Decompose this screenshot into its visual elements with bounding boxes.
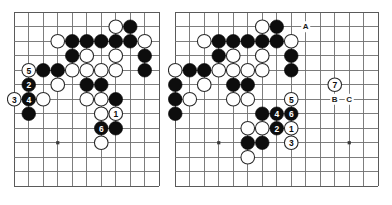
stone-white (109, 63, 123, 77)
stone-body (197, 63, 211, 77)
stone-black-move-4: 4 (22, 92, 36, 106)
stone-body (94, 92, 108, 106)
stone-black (212, 34, 226, 48)
stone-body (51, 34, 65, 48)
stone-body (36, 63, 50, 77)
stone-body (241, 136, 255, 150)
stone-body (109, 20, 123, 34)
stone-white (109, 49, 123, 63)
stone-black (123, 34, 137, 48)
stone-body (212, 34, 226, 48)
stone-move-number: 7 (332, 80, 337, 90)
stone-move-number: 1 (113, 109, 118, 119)
right-go-board-grid: ABC7546213 (168, 5, 386, 194)
stone-body (284, 34, 298, 48)
stone-body (255, 49, 269, 63)
stone-body (51, 63, 65, 77)
stone-white (197, 34, 211, 48)
stone-move-number: 4 (26, 94, 31, 104)
stone-move-number: 2 (274, 123, 279, 133)
stone-black-move-2: 2 (22, 78, 36, 92)
star-point (56, 141, 59, 144)
stone-move-number: 6 (99, 123, 104, 133)
stone-body (94, 136, 108, 150)
stone-white (255, 121, 269, 135)
stone-body (255, 34, 269, 48)
stone-black (284, 49, 298, 63)
stone-black (109, 121, 123, 135)
left-go-board-grid: 523416 (7, 5, 167, 194)
stone-body (168, 78, 182, 92)
stone-black (284, 63, 298, 77)
stone-move-number: 5 (289, 94, 294, 104)
stone-body (138, 63, 152, 77)
stone-black (168, 107, 182, 121)
stone-body (197, 34, 211, 48)
stone-body (109, 121, 123, 135)
stone-body (138, 34, 152, 48)
stone-body (80, 34, 94, 48)
stone-move-number: 2 (26, 80, 31, 90)
stone-white (94, 92, 108, 106)
left-go-board: 523416 (7, 5, 167, 194)
stone-body (241, 34, 255, 48)
stone-white (80, 49, 94, 63)
stone-body (94, 63, 108, 77)
stone-black (138, 49, 152, 63)
stone-white (168, 63, 182, 77)
stone-black-move-6: 6 (284, 107, 298, 121)
stone-white (138, 34, 152, 48)
stone-body (123, 20, 137, 34)
stone-black (270, 20, 284, 34)
stone-body (65, 63, 79, 77)
stone-move-number: 3 (12, 94, 17, 104)
stone-body (226, 63, 240, 77)
stone-move-number: 5 (26, 65, 31, 75)
stone-white (94, 63, 108, 77)
stone-body (94, 34, 108, 48)
stone-body (94, 78, 108, 92)
go-diagram-figure: 523416ABC7546213 (0, 0, 392, 205)
stone-black-move-4: 4 (270, 107, 284, 121)
stone-body (255, 63, 269, 77)
stone-black (138, 63, 152, 77)
stone-white (212, 63, 226, 77)
stone-black (80, 34, 94, 48)
stone-white (197, 78, 211, 92)
stone-white (109, 20, 123, 34)
stone-white-move-3: 3 (7, 92, 21, 106)
stone-black (51, 63, 65, 77)
stone-white (51, 34, 65, 48)
stone-body (109, 34, 123, 48)
stone-black-move-6: 6 (94, 121, 108, 135)
stone-body (80, 49, 94, 63)
stone-body (65, 34, 79, 48)
stone-black (270, 34, 284, 48)
stone-body (255, 136, 269, 150)
stone-body (241, 121, 255, 135)
stone-body (212, 63, 226, 77)
star-point (217, 141, 220, 144)
stone-white (80, 92, 94, 106)
stone-black (255, 107, 269, 121)
stone-black (109, 92, 123, 106)
stone-body (183, 92, 197, 106)
stone-body (183, 63, 197, 77)
stone-body (226, 49, 240, 63)
stone-body (270, 34, 284, 48)
stone-black (197, 63, 211, 77)
stone-white-move-1: 1 (284, 121, 298, 135)
stone-black (226, 34, 240, 48)
stone-body (80, 92, 94, 106)
stone-body (22, 107, 36, 121)
stone-white (255, 20, 269, 34)
stone-body (80, 63, 94, 77)
stone-white (255, 49, 269, 63)
stone-white (241, 121, 255, 135)
stone-body (241, 150, 255, 164)
stone-black (123, 20, 137, 34)
stone-white (241, 150, 255, 164)
stone-body (270, 20, 284, 34)
stone-white (94, 136, 108, 150)
stone-white (80, 63, 94, 77)
